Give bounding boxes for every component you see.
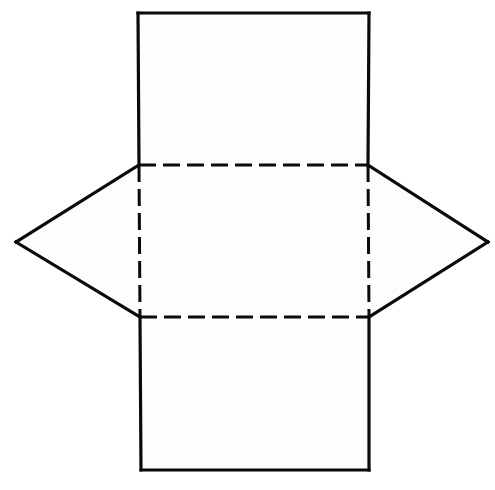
top-face-left-edge [138,13,139,165]
bottom-square-face [140,317,369,470]
center-square-face [139,165,369,317]
top-face-right-edge [368,13,369,165]
bottom-face-left-edge [140,317,141,470]
top-square-face [138,13,369,165]
diagram-canvas [0,0,495,490]
geometric-net-figure [0,0,495,490]
